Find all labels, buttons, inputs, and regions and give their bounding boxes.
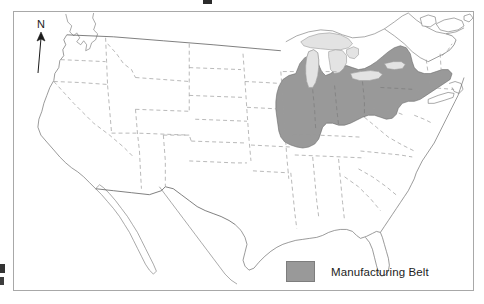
border-sc-nc [358,169,398,197]
georgian-bay [347,47,359,59]
border-ut-co [135,109,139,151]
cropped-left-fragment-lower [0,277,4,285]
border-az-nm [139,151,141,189]
gulf-of-california-coast [159,187,237,284]
border-co-ks [163,135,191,141]
legend-label-manufacturing-belt: Manufacturing Belt [331,266,429,278]
border-nv-ut [108,85,112,133]
figure-manufacturing-belt-map: N Manufacturing Belt [0,0,484,304]
border-ks-ok [191,141,247,143]
border-ca-nv [54,82,134,157]
border-ok-tx [189,161,247,163]
border-wy-co [135,109,189,111]
maine-outline [428,34,456,62]
border-ms-al [313,157,319,217]
cropped-title-fragment [203,0,212,4]
long-island-outline [428,92,454,103]
border-nm-tx [163,135,165,187]
border-tn-south [295,155,365,158]
map-canvas [14,12,473,290]
ontario-shore [286,13,408,42]
border-al-ga [339,159,345,221]
border-nc-va [360,151,412,157]
border-la-ms [291,173,297,229]
border-va-wv [364,117,414,151]
border-ar-la [253,171,289,173]
border-or-ca [54,82,108,85]
baja-california-outline [96,185,157,274]
cape-breton-outline [464,14,473,22]
legend-swatch-manufacturing-belt [286,261,315,282]
compass-rose: N [30,18,56,74]
border-ne-ks [195,119,247,121]
canada-outline [66,13,98,51]
us-canada-border-49 [67,35,281,51]
lake-ontario-overlay [384,62,405,70]
border-wa-or [61,60,106,62]
border-pacific-idaho [106,38,108,86]
map-legend: Manufacturing Belt [286,261,429,282]
compass-label: N [30,18,52,30]
border-nd-sd [189,68,241,70]
border-md-de [414,115,432,123]
border-id-mt [108,44,136,78]
map-frame: N Manufacturing Belt [13,11,474,291]
border-sd-ne [189,95,243,97]
border-mn-ia [245,82,281,84]
border-me-nh [442,44,452,56]
north-arrow-icon [30,30,52,74]
border-mo-ar [251,145,291,147]
cropped-left-fragment-upper [0,264,5,273]
border-mt-wy [135,78,189,82]
border-ga-sc [345,177,381,211]
